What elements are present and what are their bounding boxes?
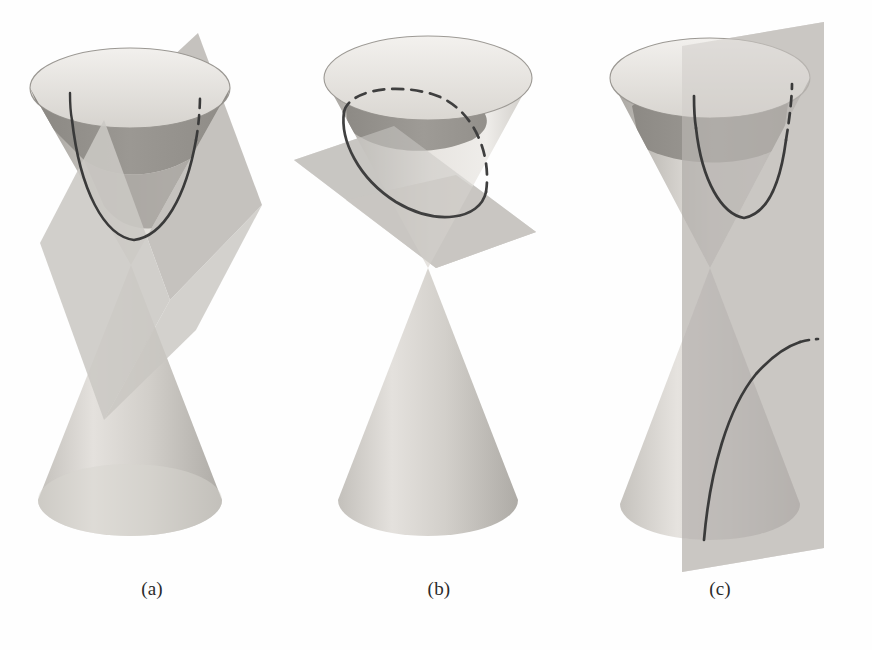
- panel-hyperbola: [576, 0, 872, 580]
- ellipse-diagram: [286, 0, 586, 580]
- caption-row: (a) (b) (c): [0, 578, 872, 624]
- caption-label-c: (c): [660, 578, 780, 600]
- panel-ellipse: [286, 0, 586, 580]
- lower-nappe: [338, 268, 518, 536]
- panel-parabola: [0, 0, 300, 580]
- caption-label-b: (b): [379, 578, 499, 600]
- caption-label-a: (a): [92, 578, 212, 600]
- hyperbola-diagram: [576, 0, 872, 580]
- conic-sections-figure: (a) (b) (c): [0, 0, 872, 650]
- cutting-plane-front: [294, 126, 536, 268]
- parabola-diagram: [0, 0, 300, 580]
